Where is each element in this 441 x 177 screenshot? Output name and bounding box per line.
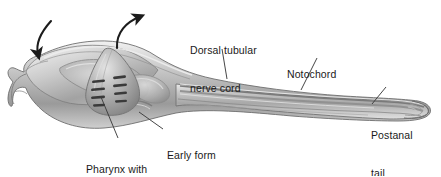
incurrent-water-flow-arrow: [37, 21, 51, 54]
label-line-2: tail: [371, 167, 413, 177]
label-line-1: Notochord: [287, 68, 336, 81]
label-early-form-of-thyroid-gland: Early form of thyroid gland: [167, 124, 240, 176]
label-line-1: Postanal: [371, 129, 413, 142]
label-line-2: nerve cord: [190, 82, 257, 95]
label-notochord: Notochord: [287, 43, 336, 106]
label-line-1: Pharynx with: [86, 163, 147, 176]
label-line-1: Early form: [167, 149, 240, 162]
label-pharynx-with-gill-slits: Pharynx with gill slits: [86, 138, 147, 176]
label-line-1: Dorsal tubular: [190, 44, 257, 57]
chordate-larva-figure: Dorsal tubular nerve cord Notochord Post…: [0, 0, 441, 176]
label-postanal-tail: Postanal tail: [371, 104, 413, 176]
label-dorsal-tubular-nerve-cord: Dorsal tubular nerve cord: [190, 19, 257, 119]
